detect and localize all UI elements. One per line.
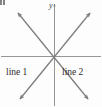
line-1-segment <box>20 13 90 99</box>
y-axis-label: y <box>49 2 53 10</box>
line-1-label: line 1 <box>6 68 27 78</box>
line-2-label: line 2 <box>62 68 83 78</box>
corner-mark <box>0 0 5 5</box>
line-2-segment <box>18 13 88 99</box>
diagram-canvas <box>0 0 102 107</box>
coordinate-plane-figure: y line 1 line 2 <box>0 0 102 107</box>
